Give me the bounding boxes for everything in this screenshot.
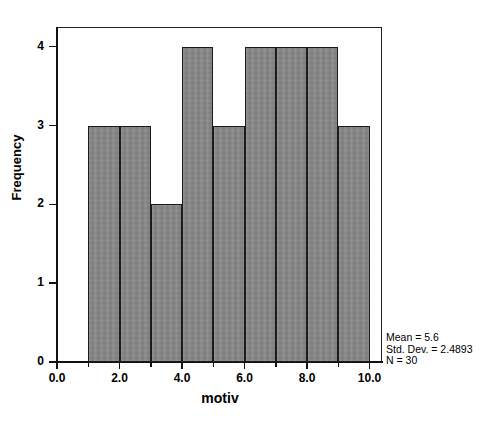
histogram-bar (245, 47, 276, 362)
histogram-bar (120, 126, 151, 362)
histogram-bar (88, 126, 119, 362)
stat-mean: Mean = 5.6 (386, 332, 473, 344)
histogram-bar (151, 204, 182, 362)
histogram-chart: Frequency 01234 0.02.04.06.08.010.0 moti… (0, 0, 496, 425)
histogram-bar (276, 47, 307, 362)
histogram-bar (182, 47, 213, 362)
stat-n: N = 30 (386, 355, 473, 367)
histogram-bar (213, 126, 244, 362)
x-axis-title: motiv (57, 390, 383, 406)
statistics-annotation: Mean = 5.6 Std. Dev. = 2.4893 N = 30 (386, 332, 473, 367)
histogram-bar (338, 126, 369, 362)
histogram-bar (307, 47, 338, 362)
